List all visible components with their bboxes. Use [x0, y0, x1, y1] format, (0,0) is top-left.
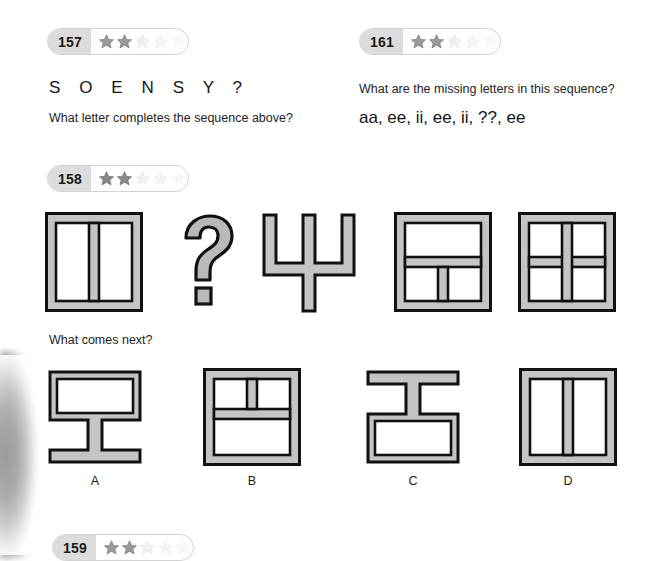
star-icon: [103, 539, 120, 556]
badge-problem-161: 161: [359, 28, 501, 55]
option-a-label: A: [75, 474, 115, 488]
star-rating-158: [91, 166, 189, 191]
star-icon: [152, 170, 169, 187]
sequence-text-161: aa, ee, ii, ee, ii, ??, ee: [359, 108, 525, 128]
option-a-figure[interactable]: [46, 368, 144, 466]
star-icon: [170, 170, 187, 187]
badge-number-159: 159: [53, 535, 96, 560]
star-icon: [134, 170, 151, 187]
option-c-label: C: [393, 474, 433, 488]
figure-two-vertical-panes: [45, 212, 143, 312]
star-icon: [464, 33, 481, 50]
star-icon: [482, 33, 499, 50]
star-icon: [446, 33, 463, 50]
star-rating-157: [91, 29, 189, 54]
badge-number-158: 158: [48, 166, 91, 191]
option-d-label: D: [548, 474, 588, 488]
question-text-161: What are the missing letters in this seq…: [359, 82, 615, 96]
star-icon: [134, 33, 151, 50]
star-rating-161: [403, 29, 501, 54]
badge-number-161: 161: [360, 29, 403, 54]
star-icon: [116, 33, 133, 50]
badge-number-157: 157: [48, 29, 91, 54]
star-icon: [428, 33, 445, 50]
star-icon: [139, 539, 156, 556]
star-icon: [121, 539, 138, 556]
star-icon: [157, 539, 174, 556]
star-icon: [152, 33, 169, 50]
star-icon: [116, 170, 133, 187]
figure-four-panes: [518, 212, 616, 312]
page-curl-gradient: [0, 355, 46, 555]
badge-problem-157: 157: [47, 28, 189, 55]
star-icon: [175, 539, 192, 556]
figure-top-pane-two-bottom: [394, 212, 492, 312]
star-icon: [98, 33, 115, 50]
question-text-157: What letter completes the sequence above…: [49, 111, 293, 125]
option-c-figure[interactable]: [364, 368, 462, 466]
option-d-figure[interactable]: [519, 368, 617, 466]
sequence-letters-157: S O E N S Y ?: [49, 78, 242, 98]
option-b-label: B: [232, 474, 272, 488]
page-curl-shadow: [0, 352, 34, 558]
star-icon: [170, 33, 187, 50]
question-text-158: What comes next?: [49, 333, 153, 347]
star-icon: [98, 170, 115, 187]
badge-problem-159: 159: [52, 534, 194, 561]
badge-problem-158: 158: [47, 165, 189, 192]
star-rating-159: [96, 535, 194, 560]
figure-trident: [262, 213, 356, 313]
option-b-figure[interactable]: [203, 368, 301, 466]
figure-question-mark: [182, 214, 234, 310]
star-icon: [410, 33, 427, 50]
